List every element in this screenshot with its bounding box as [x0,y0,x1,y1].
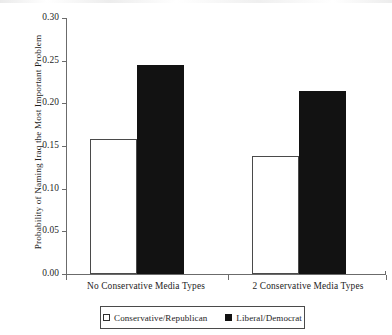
x-tick-mark [228,275,229,280]
legend-entry: Conservative/Republican [103,313,207,323]
bar-conservative-republican-group1 [90,139,137,274]
chart-legend: Conservative/RepublicanLiberal/Democrat [100,306,305,329]
filled-square-icon [225,314,232,321]
x-category-label: No Conservative Media Types [66,281,226,291]
x-tick-mark [66,275,67,280]
legend-label: Conservative/Republican [114,313,207,323]
legend-label: Liberal/Democrat [236,313,302,323]
x-tick-mark [386,275,387,280]
bar-conservative-republican-group2 [252,156,299,274]
bar-liberal-democrat-group1 [137,65,184,274]
legend-entry: Liberal/Democrat [225,313,302,323]
open-square-icon [103,314,110,321]
bar-chart: Probability of Naming Iraq the Most Impo… [0,0,392,335]
x-category-label: 2 Conservative Media Types [228,281,388,291]
bars-layer [0,0,392,275]
bar-liberal-democrat-group2 [299,91,346,274]
